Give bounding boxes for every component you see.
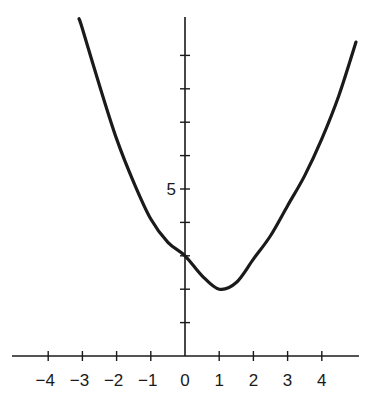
x-tick-label: −3 <box>70 371 89 390</box>
y-tick-label: 5 <box>167 180 176 199</box>
axes <box>12 17 359 356</box>
x-tick-label: 3 <box>283 371 292 390</box>
x-tick-label: −4 <box>36 371 55 390</box>
chart: −4−3−2−101234 5 <box>0 0 369 393</box>
x-tick-label: −2 <box>104 371 123 390</box>
x-tick-label: 0 <box>180 371 189 390</box>
x-tick-label: 2 <box>249 371 258 390</box>
curve-line <box>79 19 356 290</box>
x-tick-label: −1 <box>138 371 157 390</box>
x-tick-label: 4 <box>317 371 326 390</box>
y-ticks: 5 <box>167 55 190 322</box>
x-ticks: −4−3−2−101234 <box>36 351 327 390</box>
x-tick-label: 1 <box>214 371 223 390</box>
series <box>79 19 356 290</box>
